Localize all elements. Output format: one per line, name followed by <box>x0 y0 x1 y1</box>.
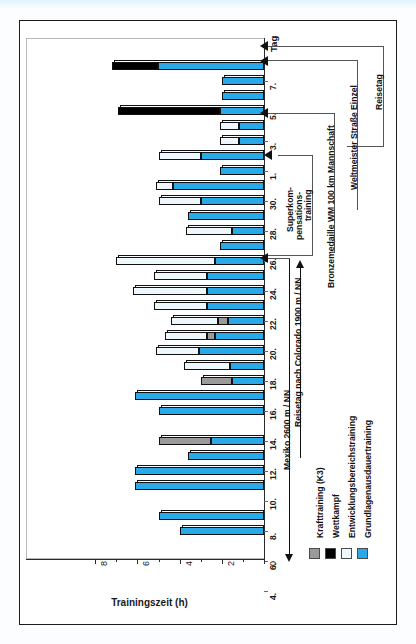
bar-row <box>159 152 265 160</box>
bar-top-lip <box>158 345 264 347</box>
bar-row <box>159 197 265 205</box>
bar-segment-grundlagen <box>201 152 264 160</box>
bar-top-lip <box>222 120 264 122</box>
bar-segment-grundlagen <box>188 452 264 460</box>
bar-row <box>133 287 264 295</box>
bar-row <box>154 302 264 310</box>
scan-tint <box>0 0 416 10</box>
bar-top-lip <box>190 450 264 452</box>
day-tick <box>264 441 268 442</box>
callout-arrow-day1 <box>264 150 272 160</box>
bar-segment-grundlagen <box>215 257 264 265</box>
bar-segment-kraft <box>159 437 212 445</box>
bar-segment-grundlagen <box>220 242 264 250</box>
bar-top-lip <box>203 375 264 377</box>
value-tick-label: 6 <box>141 561 151 566</box>
bar-segment-entwicklung <box>154 302 207 310</box>
bar-row <box>135 482 264 490</box>
legend-swatch-wettkampf <box>325 548 336 559</box>
bar-segment-kraft <box>201 377 233 385</box>
day-label: 12. <box>268 468 278 480</box>
bar-segment-kraft <box>207 332 215 340</box>
bar-row <box>135 392 264 400</box>
day-tick <box>264 291 268 292</box>
bar-segment-grundlagen <box>159 512 265 520</box>
day-label: 7. <box>268 83 278 90</box>
bar-top-lip <box>161 150 265 152</box>
bar-row <box>171 317 264 325</box>
annotation-superkomp-line3: training <box>304 189 313 221</box>
bar-row <box>135 467 264 475</box>
bar-segment-grundlagen <box>215 332 264 340</box>
bar-segment-entwicklung <box>116 257 215 265</box>
bar-segment-entwicklung <box>156 182 173 190</box>
bar-row <box>188 452 264 460</box>
value-tick <box>180 559 181 564</box>
day-label: 3. <box>268 143 278 150</box>
bar-top-lip <box>156 300 264 302</box>
day-tick <box>264 81 268 82</box>
bar-segment-grundlagen <box>222 92 264 100</box>
bar-top-lip <box>224 75 264 77</box>
day-tick <box>264 531 268 532</box>
bar-top-lip <box>222 165 264 167</box>
bronze-bracket-top <box>268 113 335 114</box>
bar-segment-entwicklung <box>133 287 207 295</box>
bar-top-lip <box>167 330 264 332</box>
reisetag-bracket-top <box>268 46 384 47</box>
bar-segment-grundlagen <box>135 467 264 475</box>
day-label: 4. <box>268 593 278 600</box>
bar-segment-grundlagen <box>188 212 264 220</box>
bar-row <box>118 107 264 115</box>
value-tick <box>201 559 202 562</box>
bar-row <box>159 437 265 445</box>
bar-segment-grundlagen <box>220 107 264 115</box>
bar-segment-entwicklung <box>159 152 201 160</box>
superkomp-bracket-top <box>278 155 313 156</box>
bar-segment-grundlagen <box>211 437 264 445</box>
bar-top-lip <box>222 240 264 242</box>
day-tick <box>264 591 268 592</box>
weltmeister-bracket-top <box>268 60 358 61</box>
bar-segment-grundlagen <box>239 137 264 145</box>
day-label: 18. <box>268 378 278 390</box>
value-tick <box>137 559 138 564</box>
callout-arrow-day9 <box>260 41 268 51</box>
bar-top-lip <box>118 255 264 257</box>
bar-row <box>184 362 264 370</box>
bar-segment-entwicklung <box>220 137 239 145</box>
bar-segment-grundlagen <box>232 377 264 385</box>
bar-top-lip <box>182 525 264 527</box>
annotation-reisetag: Reisetag <box>375 74 384 110</box>
day-label: 8. <box>268 533 278 540</box>
bar-segment-entwicklung <box>184 362 230 370</box>
day-tick <box>264 231 268 232</box>
colorado-span-arrow-up <box>296 260 304 268</box>
bar-row <box>112 62 264 70</box>
bar-row <box>159 407 265 415</box>
bar-segment-grundlagen <box>207 302 264 310</box>
day-tick <box>264 471 268 472</box>
day-tick <box>264 201 268 202</box>
bar-row <box>201 377 264 385</box>
callout-arrow-day8 <box>260 56 268 66</box>
bar-segment-wettkampf <box>112 62 158 70</box>
bar-segment-entwicklung <box>220 122 239 130</box>
day-label: 16. <box>268 408 278 420</box>
bar-row <box>220 122 264 130</box>
annotation-mexiko: Mexiko 2600 m / NN <box>283 390 292 470</box>
bar-segment-grundlagen <box>230 362 264 370</box>
bar-top-lip <box>156 270 264 272</box>
bar-top-lip <box>222 135 264 137</box>
value-axis-title: Trainingszeit (h) <box>62 597 237 608</box>
legend-label-wettkampf: Wettkampf <box>331 494 341 538</box>
bar-row <box>220 137 264 145</box>
bar-top-lip <box>190 210 264 212</box>
value-tick-label: 4 <box>184 561 194 566</box>
bar-top-lip <box>158 180 264 182</box>
bar-top-lip <box>114 60 264 62</box>
bar-segment-grundlagen <box>201 197 264 205</box>
day-label: 14. <box>268 438 278 450</box>
bar-segment-kraft <box>218 317 229 325</box>
legend-swatch-krafttraining <box>309 548 320 559</box>
